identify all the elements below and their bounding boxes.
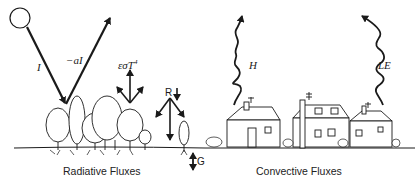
latent-heat-label: LE	[378, 60, 391, 71]
emitted-radiation-exponent: 4	[134, 58, 138, 66]
convective-fluxes-caption: Convective Fluxes	[256, 165, 342, 177]
sun-icon	[10, 8, 30, 28]
ground-flux-label: G	[197, 157, 205, 167]
flux-diagram	[0, 0, 420, 185]
radiative-fluxes-caption: Radiative Fluxes	[63, 165, 141, 177]
forest-trees	[46, 96, 189, 155]
net-radiation-label: R	[165, 88, 172, 98]
emitted-radiation-arrows	[117, 70, 143, 103]
reflected-radiation-label: −aI	[66, 55, 83, 66]
houses	[227, 92, 392, 148]
emitted-radiation-label: εσT4	[118, 59, 137, 71]
sensible-heat-swirl	[233, 16, 242, 105]
emitted-radiation-text: εσT	[118, 59, 134, 71]
incoming-radiation-label: I	[37, 62, 41, 73]
incoming-radiation-arrow	[27, 27, 65, 103]
sensible-heat-label: H	[249, 60, 257, 71]
